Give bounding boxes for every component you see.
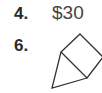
square-shape	[61, 34, 102, 78]
triangle-shape	[52, 52, 87, 88]
problem-6-figure-icon	[0, 0, 102, 93]
